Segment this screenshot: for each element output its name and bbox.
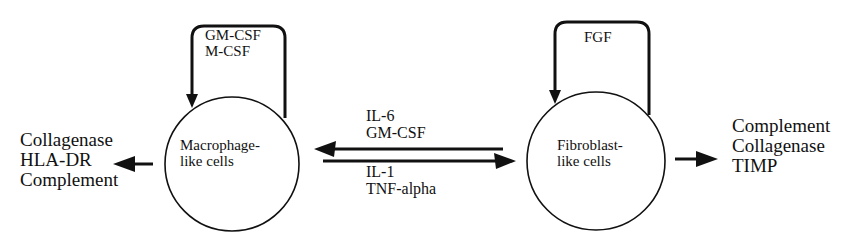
macrophage-loop-arrowhead	[186, 94, 198, 108]
node-label-line: Macrophage-	[180, 138, 260, 154]
macrophage-node-label: Macrophage- like cells	[180, 138, 260, 170]
fibroblast-loop-label: FGF	[584, 30, 612, 46]
node-label-line: like cells	[180, 154, 260, 170]
loop-label-line: FGF	[584, 30, 612, 46]
arrowhead-fibroblast-output	[696, 151, 718, 167]
macrophage-loop-label: GM-CSF M-CSF	[205, 28, 261, 60]
fibroblast-outputs: Complement Collagenase TIMP	[732, 116, 830, 176]
edge-label-line: IL-1	[366, 164, 436, 181]
edge-label-line: TNF-alpha	[366, 181, 436, 198]
macrophage-outputs: Collagenase HLA-DR Complement	[20, 130, 118, 190]
output-item: Collagenase	[20, 130, 118, 150]
edge-label-line: IL-6	[366, 108, 426, 125]
loop-label-line: GM-CSF	[205, 28, 261, 44]
arrowhead-left-paracrine	[314, 141, 336, 157]
output-item: HLA-DR	[20, 150, 118, 170]
node-label-line: like cells	[557, 154, 623, 170]
edge-label-macrophage-to-fibroblast: IL-1 TNF-alpha	[366, 164, 436, 198]
diagram-canvas	[0, 0, 858, 244]
output-item: Collagenase	[732, 136, 830, 156]
output-item: Complement	[732, 116, 830, 136]
node-label-line: Fibroblast-	[557, 138, 623, 154]
edge-label-line: GM-CSF	[366, 125, 426, 142]
edge-label-fibroblast-to-macrophage: IL-6 GM-CSF	[366, 108, 426, 142]
output-item: TIMP	[732, 156, 830, 176]
fibroblast-node-label: Fibroblast- like cells	[557, 138, 623, 170]
arrowhead-right-paracrine	[494, 153, 516, 169]
loop-label-line: M-CSF	[205, 44, 261, 60]
output-item: Complement	[20, 170, 118, 190]
